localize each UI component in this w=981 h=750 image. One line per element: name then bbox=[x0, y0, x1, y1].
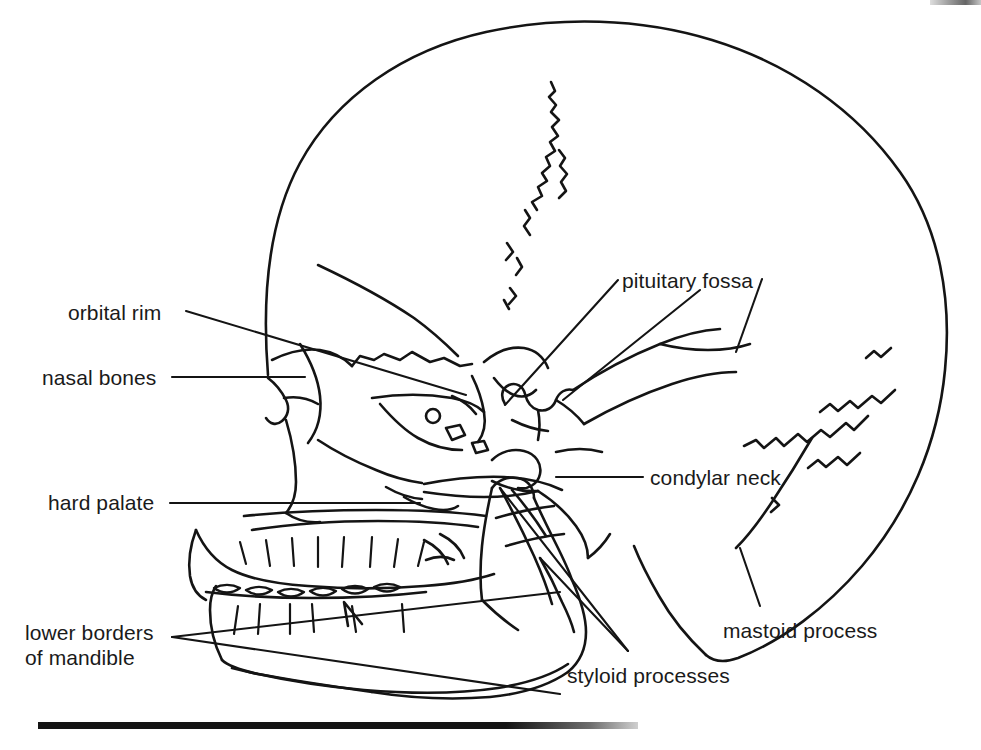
dorsum-sellae bbox=[538, 410, 540, 440]
coronal-suture-lower-d bbox=[509, 288, 516, 304]
coronal-suture-lower-a bbox=[524, 210, 530, 235]
greater-wing-sphenoid bbox=[484, 348, 548, 368]
sphenoid-sinus-outline bbox=[512, 420, 548, 431]
pituitary-leader-2 bbox=[563, 290, 700, 400]
mastoid-tip bbox=[588, 534, 610, 558]
bone-fragment-a bbox=[446, 425, 465, 440]
petrous-ridge-lower bbox=[584, 372, 736, 424]
orbital-rim-leader bbox=[186, 311, 466, 395]
mandible-symphysis bbox=[210, 586, 222, 660]
pituitary-leader-1 bbox=[505, 280, 618, 405]
orbital-roof bbox=[352, 352, 472, 366]
coronal-suture-lower-b bbox=[506, 243, 513, 260]
upper-molar-detail-c bbox=[426, 557, 454, 560]
orbital-rim-curve bbox=[300, 344, 321, 443]
mandible-leader-1 bbox=[172, 592, 560, 637]
label-orbital-rim: orbital rim bbox=[68, 300, 161, 325]
mandible-body-lower bbox=[222, 660, 372, 692]
label-hard-palate: hard palate bbox=[48, 490, 154, 515]
label-of-mandible: of mandible bbox=[25, 645, 135, 670]
mandibular-ramus-anterior bbox=[481, 488, 493, 600]
label-styloid-processes: styloid processes bbox=[567, 663, 730, 688]
coronal-suture bbox=[532, 82, 559, 210]
coronal-suture-branch bbox=[559, 150, 567, 198]
label-lower-borders: lower borders bbox=[25, 620, 154, 645]
upper-teeth-roots bbox=[240, 537, 424, 567]
nasal-bones bbox=[266, 378, 288, 424]
hard-palate-under bbox=[252, 521, 478, 530]
mandibular-angle bbox=[372, 672, 568, 698]
coronal-suture-lower-c bbox=[516, 258, 522, 275]
mandible-notch bbox=[482, 600, 518, 630]
maxilla-anterior-border bbox=[189, 530, 206, 600]
temporal-line bbox=[318, 265, 458, 356]
label-condylar-neck: condylar neck bbox=[650, 465, 781, 490]
mastoid-process-leader bbox=[740, 548, 760, 606]
zygomatic-arch-lower bbox=[424, 491, 538, 497]
maxilla-anterior bbox=[286, 513, 320, 522]
foramen-magnum-anterior bbox=[556, 449, 602, 452]
label-pituitary-fossa: pituitary fossa bbox=[622, 268, 753, 293]
hard-palate bbox=[244, 510, 486, 516]
label-nasal-bones: nasal bones bbox=[42, 365, 156, 390]
lambdoid-suture-main bbox=[744, 416, 868, 448]
optic-foramen bbox=[426, 409, 440, 423]
lambdoid-suture-lower bbox=[808, 453, 860, 468]
occipital-inferior-margin bbox=[634, 546, 706, 655]
cranial-vault-outline bbox=[266, 22, 947, 662]
lambdoid-suture-upper bbox=[820, 390, 895, 412]
clivus bbox=[556, 400, 584, 424]
page-corner-mark bbox=[930, 0, 981, 5]
infraorbital-contour bbox=[318, 440, 422, 483]
lambdoid-suture-branch-a bbox=[866, 348, 891, 358]
nasal-bridge bbox=[284, 397, 318, 404]
label-mastoid-process: mastoid process bbox=[723, 618, 877, 643]
petrous-ridge bbox=[573, 329, 720, 390]
occipital-inner-contour bbox=[736, 438, 812, 548]
page-divider-rule bbox=[38, 722, 638, 729]
bone-fragment-b bbox=[472, 441, 488, 453]
zygomatic-process-left bbox=[286, 420, 296, 513]
